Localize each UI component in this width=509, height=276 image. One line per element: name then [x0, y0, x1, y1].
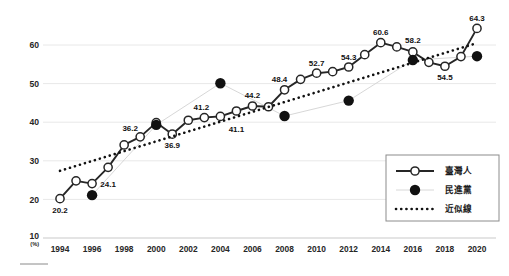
- y-tick-40: 40: [29, 117, 39, 127]
- x-tick-2004: 2004: [211, 244, 230, 254]
- legend-label-filled-circle: 民進黨: [445, 184, 472, 195]
- taiwanese-point-2006: [248, 102, 256, 110]
- legend-marker-open-circle: [411, 167, 419, 175]
- legend-label-line-open-circle: 臺灣人: [445, 165, 472, 176]
- value-label-1994: 20.2: [52, 206, 68, 215]
- taiwanese-point-2020: [473, 24, 481, 32]
- y-axis-unit-label: 10(%): [29, 231, 39, 247]
- x-tick-2002: 2002: [179, 244, 198, 254]
- taiwanese-point-2005: [232, 107, 240, 115]
- taiwanese-point-2015: [393, 43, 401, 51]
- taiwanese-point-2003: [200, 113, 208, 121]
- dpp-point-2020: [472, 51, 482, 61]
- dpp-point-2004: [215, 78, 225, 88]
- taiwanese-point-2013: [361, 51, 369, 59]
- value-label-2010: 52.7: [309, 59, 325, 68]
- chart-legend: 臺灣人民進黨近似線: [386, 155, 499, 221]
- taiwanese-point-1994: [56, 195, 64, 203]
- taiwanese-point-1998: [120, 141, 128, 149]
- chart-container: 2030405060 19941996199820002002200420062…: [0, 0, 509, 276]
- value-label-2012: 54.3: [341, 53, 357, 62]
- y-axis-unit: (%): [30, 241, 39, 247]
- taiwanese-point-1995: [72, 177, 80, 185]
- taiwanese-point-2009: [296, 75, 304, 83]
- x-tick-2006: 2006: [243, 244, 262, 254]
- taiwanese-point-2004: [216, 112, 224, 120]
- taiwanese-point-2018: [441, 62, 449, 70]
- taiwanese-point-1996: [88, 179, 96, 187]
- taiwanese-point-2002: [184, 116, 192, 124]
- y-tick-50: 50: [29, 79, 39, 89]
- x-tick-2014: 2014: [371, 244, 390, 254]
- taiwanese-point-2016: [409, 48, 417, 56]
- value-label-2001: 36.9: [164, 141, 180, 150]
- value-label-1999: 36.2: [122, 124, 138, 133]
- value-label-1996: 24.1: [100, 180, 116, 189]
- legend-frame: [386, 155, 499, 221]
- identity-trend-line-chart: 2030405060 19941996199820002002200420062…: [0, 0, 509, 276]
- taiwanese-point-1999: [136, 133, 144, 141]
- y-axis-labels: 2030405060: [29, 40, 39, 204]
- dpp-point-2000: [151, 120, 161, 130]
- value-label-2016: 58.2: [405, 36, 421, 45]
- x-tick-2016: 2016: [404, 244, 423, 254]
- taiwanese-point-2014: [377, 39, 385, 47]
- taiwanese-point-1997: [104, 163, 112, 171]
- x-tick-2008: 2008: [275, 244, 294, 254]
- taiwanese-point-2008: [280, 86, 288, 94]
- legend-marker-filled-circle: [410, 185, 420, 195]
- x-axis-labels: 1994199619982000200220042006200820102012…: [51, 244, 487, 254]
- x-tick-1998: 1998: [115, 244, 134, 254]
- taiwanese-point-2019: [457, 52, 465, 60]
- legend-label-dotted-line: 近似線: [445, 203, 472, 214]
- taiwanese-point-2010: [313, 69, 321, 77]
- taiwanese-point-2017: [425, 58, 433, 66]
- y-tick-60: 60: [29, 40, 39, 50]
- y-tick-10: 10: [29, 231, 39, 241]
- x-tick-2012: 2012: [339, 244, 358, 254]
- value-label-2008: 48.4: [272, 75, 288, 84]
- x-tick-1994: 1994: [51, 244, 70, 254]
- taiwanese-point-2011: [329, 68, 337, 76]
- y-tick-30: 30: [29, 156, 39, 166]
- x-tick-1996: 1996: [83, 244, 102, 254]
- x-tick-2020: 2020: [468, 244, 487, 254]
- value-label-2020: 64.3: [469, 14, 485, 23]
- y-tick-20: 20: [29, 195, 39, 205]
- value-label-2014: 60.6: [373, 28, 389, 37]
- value-label-2006: 44.2: [245, 91, 261, 100]
- dpp-point-2012: [343, 95, 353, 105]
- taiwanese-point-2012: [345, 63, 353, 71]
- dpp-point-1996: [87, 190, 97, 200]
- value-label-2005: 41.1: [229, 125, 245, 134]
- value-label-2003: 41.2: [194, 103, 210, 112]
- x-tick-2010: 2010: [307, 244, 326, 254]
- dpp-point-2008: [279, 111, 289, 121]
- x-tick-2000: 2000: [147, 244, 166, 254]
- value-label-2018: 54.5: [437, 73, 453, 82]
- x-tick-2018: 2018: [436, 244, 455, 254]
